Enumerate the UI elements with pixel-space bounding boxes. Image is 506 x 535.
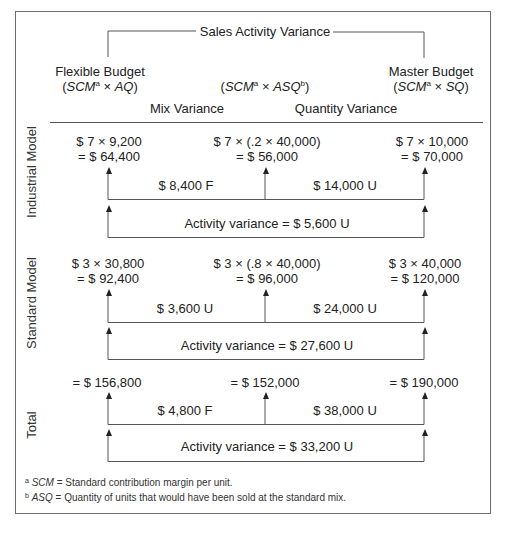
footnote-b: b ASQ = Quantity of units that would hav… bbox=[25, 491, 346, 504]
total-asq-value: = $ 152,000 bbox=[230, 375, 299, 390]
section-label-total: Total bbox=[24, 411, 39, 438]
industrial-activity-variance: Activity variance = $ 5,600 U bbox=[184, 216, 349, 231]
arrow-up-icon bbox=[422, 327, 428, 334]
total-flexible-value: = $ 156,800 bbox=[72, 375, 141, 390]
flexible-budget-formula: (SCMa × AQ) bbox=[55, 79, 145, 94]
total-master-value: = $ 190,000 bbox=[389, 375, 458, 390]
footnote-a: a SCM = Standard contribution margin per… bbox=[25, 476, 233, 489]
arrow-up-icon bbox=[422, 205, 428, 212]
total-mix-variance: $ 4,800 F bbox=[158, 403, 213, 418]
industrial-asq-value: $ 7 × (.2 × 40,000) = $ 56,000 bbox=[214, 134, 321, 164]
standard-asq-value: $ 3 × (.8 × 40,000) = $ 96,000 bbox=[214, 256, 321, 286]
total-quantity-variance: $ 38,000 U bbox=[313, 403, 377, 418]
arrow-up-icon bbox=[263, 167, 269, 174]
standard-mix-variance: $ 3,600 U bbox=[157, 301, 213, 316]
diagram-title: Sales Activity Variance bbox=[200, 24, 331, 39]
arrow-up-icon bbox=[106, 429, 112, 436]
industrial-quantity-variance: $ 14,000 U bbox=[313, 178, 377, 193]
mix-variance-header: Mix Variance bbox=[150, 101, 224, 116]
arrow-up-icon bbox=[422, 429, 428, 436]
arrow-up-icon bbox=[422, 167, 428, 174]
master-budget-formula: (SCMa × SQ) bbox=[389, 79, 474, 94]
industrial-mix-variance: $ 8,400 F bbox=[159, 178, 214, 193]
flexible-budget-label: Flexible Budget bbox=[55, 64, 145, 79]
section-label-standard: Standard Model bbox=[24, 257, 39, 349]
arrow-up-icon bbox=[263, 289, 269, 296]
standard-activity-variance: Activity variance = $ 27,600 U bbox=[181, 338, 353, 353]
standard-flexible-value: $ 3 × 30,800 = $ 92,400 bbox=[72, 256, 145, 286]
industrial-flexible-value: $ 7 × 9,200 = $ 64,400 bbox=[76, 134, 141, 164]
arrow-up-icon bbox=[106, 327, 112, 334]
arrow-up-icon bbox=[106, 289, 112, 296]
standard-mix-header: (SCMa × ASQb) bbox=[221, 79, 310, 94]
master-budget-header: Master Budget (SCMa × SQ) bbox=[389, 64, 474, 94]
standard-master-value: $ 3 × 40,000 = $ 120,000 bbox=[389, 256, 462, 286]
arrow-up-icon bbox=[422, 289, 428, 296]
arrow-up-icon bbox=[106, 205, 112, 212]
standard-quantity-variance: $ 24,000 U bbox=[313, 301, 377, 316]
arrow-up-icon bbox=[106, 167, 112, 174]
arrow-up-icon bbox=[263, 392, 269, 399]
total-activity-variance: Activity variance = $ 33,200 U bbox=[181, 439, 353, 454]
quantity-variance-header: Quantity Variance bbox=[295, 101, 397, 116]
flexible-budget-header: Flexible Budget (SCMa × AQ) bbox=[55, 64, 145, 94]
arrow-up-icon bbox=[422, 392, 428, 399]
standard-mix-formula: (SCMa × ASQb) bbox=[221, 79, 310, 94]
section-label-industrial: Industrial Model bbox=[24, 126, 39, 218]
industrial-master-value: $ 7 × 10,000 = $ 70,000 bbox=[396, 134, 469, 164]
arrow-up-icon bbox=[106, 392, 112, 399]
master-budget-label: Master Budget bbox=[389, 64, 474, 79]
